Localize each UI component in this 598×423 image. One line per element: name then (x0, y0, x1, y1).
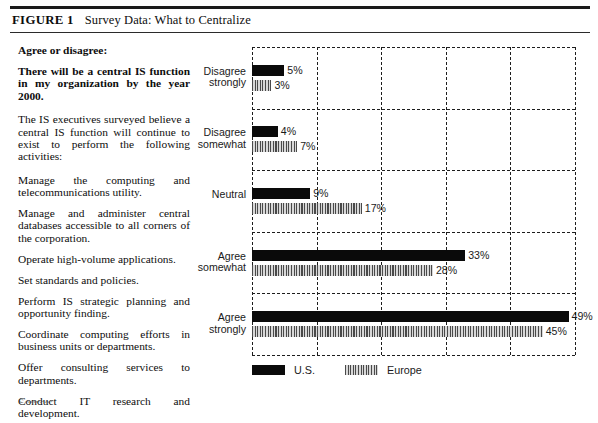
legend-label-us: U.S. (294, 364, 315, 376)
gridline-horizontal (252, 170, 575, 171)
bar-europe-0 (252, 80, 271, 91)
legend-swatch-europe (345, 365, 378, 375)
figure-title: Survey Data: What to Centralize (85, 13, 251, 27)
bar-us-4 (252, 311, 569, 322)
bar-value-label: 49% (572, 311, 593, 322)
bar-value-label: 33% (468, 250, 489, 261)
bar-value-label: 45% (546, 326, 567, 337)
bar-europe-4 (252, 326, 543, 337)
article-text-column: Agree or disagree: There will be a centr… (18, 44, 190, 423)
gridline-vertical (510, 47, 511, 355)
figure-caption: FIGURE 1Survey Data: What to Centralize (12, 13, 572, 30)
gridline-horizontal (252, 232, 575, 233)
bar-us-2 (252, 188, 310, 199)
prose-activity: Operate high-volume applications. (18, 253, 190, 265)
gridline-vertical (381, 47, 382, 355)
category-label: Agree strongly (196, 312, 246, 335)
prose-lead: The IS executives surveyed believe a cen… (18, 113, 190, 163)
gridline-horizontal (252, 47, 575, 48)
prose-activity: Set standards and policies. (18, 274, 190, 286)
category-label: Neutral (196, 189, 246, 201)
prose-activity: Offer consulting services to departments… (18, 361, 190, 386)
gridline-horizontal (252, 355, 575, 356)
bar-europe-3 (252, 265, 433, 276)
category-label: Agree somewhat (196, 251, 246, 274)
bar-value-label: 17% (365, 203, 386, 214)
gridline-horizontal (252, 109, 575, 110)
gridline-horizontal (252, 293, 575, 294)
bar-chart: Disagree stronglyDisagree somewhatNeutra… (196, 40, 590, 390)
legend-item-us: U.S. (252, 364, 315, 376)
prose-activity: Coordinate computing efforts in business… (18, 328, 190, 353)
gridline-vertical (252, 47, 253, 355)
bar-value-label: 3% (274, 80, 289, 91)
bar-europe-2 (252, 203, 362, 214)
bar-us-0 (252, 65, 284, 76)
bar-value-label: 9% (313, 188, 328, 199)
gridline-vertical (575, 47, 576, 355)
legend-label-europe: Europe (387, 364, 422, 376)
prose-heading: Agree or disagree: (18, 44, 190, 56)
figure-number: FIGURE 1 (12, 13, 74, 27)
chart-legend: U.S. Europe (252, 363, 422, 377)
bar-us-3 (252, 250, 465, 261)
prose-cut-off-line: Source: (18, 396, 190, 403)
bar-us-1 (252, 126, 278, 137)
category-label: Disagree strongly (196, 66, 246, 89)
figure-rule-top (10, 6, 590, 9)
bar-value-label: 5% (287, 65, 302, 76)
gridline-vertical (446, 47, 447, 355)
prose-activity: Manage and administer central databases … (18, 207, 190, 244)
figure-rule-bottom (10, 32, 590, 33)
bar-value-label: 28% (436, 265, 457, 276)
legend-item-europe: Europe (345, 364, 422, 376)
plot-area: 5%3%4%7%9%17%33%28%49%45% (252, 47, 575, 355)
bar-value-label: 7% (300, 141, 315, 152)
legend-swatch-us (252, 365, 285, 375)
category-label: Disagree somewhat (196, 127, 246, 150)
prose-activity: Perform IS strategic planning and opport… (18, 295, 190, 320)
bar-europe-1 (252, 141, 297, 152)
prose-activity: Manage the computing and telecommunicati… (18, 174, 190, 199)
gridline-vertical (317, 47, 318, 355)
bar-value-label: 4% (281, 126, 296, 137)
prose-question: There will be a central IS function in m… (18, 65, 190, 102)
